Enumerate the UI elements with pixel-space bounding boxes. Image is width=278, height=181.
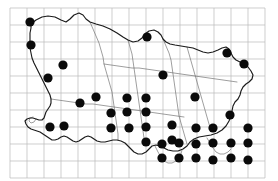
occurrence-dot [222,48,231,57]
occurrence-dot [25,17,34,26]
occurrence-dot [141,107,150,116]
occurrence-dot [243,155,252,164]
occurrence-dot [226,138,235,147]
occurrence-dot [142,32,151,41]
occurrence-dot [122,93,131,102]
occurrence-dot [106,108,115,117]
occurrence-dot [45,122,54,131]
occurrence-dot [239,59,248,68]
occurrence-dot [191,139,200,148]
occurrence-dot [243,123,252,132]
occurrence-dot [141,137,150,146]
occurrence-dot [167,120,176,129]
occurrence-dot [158,70,167,79]
occurrence-dot [226,153,235,162]
map-canvas [0,0,278,181]
occurrence-dot [191,123,200,132]
occurrence-dot [59,121,68,130]
occurrence-dot [225,110,234,119]
occurrence-dot [243,138,252,147]
occurrence-dot [122,107,131,116]
distribution-map-figure [0,0,278,181]
occurrence-dot [208,155,217,164]
occurrence-dot [174,153,183,162]
occurrence-dot [208,138,217,147]
occurrence-dot [124,123,133,132]
occurrence-dot [141,122,150,131]
occurrence-dot [43,73,52,82]
occurrence-dot [157,153,166,162]
occurrence-dot [26,40,35,49]
occurrence-dot [58,60,67,69]
occurrence-dot [208,123,217,132]
occurrence-dot [106,123,115,132]
occurrence-dot [174,138,183,147]
occurrence-dot [75,98,84,107]
occurrence-dot [191,153,200,162]
occurrence-dot [141,93,150,102]
occurrence-dot [157,139,166,148]
occurrence-dot [91,92,100,101]
occurrence-dot [190,92,199,101]
